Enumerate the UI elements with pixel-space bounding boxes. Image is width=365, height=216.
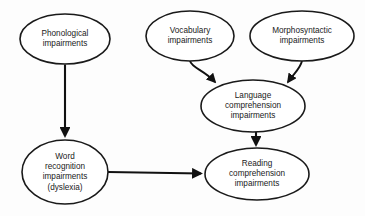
node-vocabulary-shape[interactable] — [146, 11, 234, 61]
node-language-comprehension-shape[interactable] — [201, 80, 305, 132]
edge-vocabulary-to-language-comprehension — [190, 61, 215, 82]
node-shape-layer — [20, 11, 354, 204]
edge-word-recognition-to-reading-comprehension — [108, 172, 201, 174]
node-phonological-shape[interactable] — [20, 14, 110, 64]
node-reading-comprehension-shape[interactable] — [205, 148, 309, 200]
node-morphosyntactic-shape[interactable] — [250, 11, 354, 61]
diagram-canvas: Phonological impairments Vocabulary impa… — [0, 0, 365, 216]
diagram-svg — [0, 0, 365, 216]
node-word-recognition-shape[interactable] — [22, 140, 108, 204]
edge-morphosyntactic-to-language-comprehension — [288, 61, 302, 82]
